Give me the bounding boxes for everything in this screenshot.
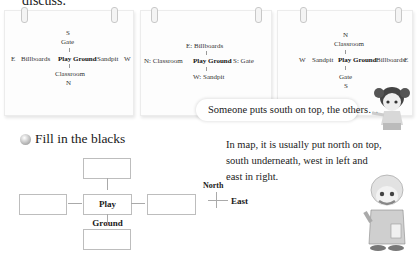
blank-box-north[interactable] [83,158,131,179]
arrow-icon [345,66,346,70]
place-bottom: Classroom [55,70,85,78]
direction-bottom: N [66,79,71,87]
exercise-title: Fill in the blacks [20,131,125,147]
place-top: E: Billboards [186,42,223,50]
arrow-icon [69,48,70,52]
blank-box-south[interactable] [83,229,131,250]
compass-horizontal-line [208,200,228,201]
place-top: Classroom [334,40,364,48]
compass-east-label: East [231,196,248,206]
paper-clip-icon [300,7,307,23]
grandpa-character-icon [355,172,415,254]
arrow-icon [345,50,346,54]
place-right: Billboards [376,56,405,64]
direction-left: E [11,55,15,63]
connector-line [131,203,145,204]
place-right: S: Gate [233,57,254,65]
girl-speech-bubble: Someone puts south on top, the others… [196,99,358,121]
compass-north-label: North [203,181,223,190]
connector-line [107,178,108,190]
direction-bottom: S [344,82,348,90]
place-top: Gate [61,38,74,46]
paper-clip-icon [255,7,262,23]
map-card-1: S Gate E Billboards Play Ground Sandpit … [4,10,134,116]
blank-box-east[interactable] [147,194,196,215]
arrow-icon [206,51,207,55]
connector-line [107,214,108,226]
girl-character-icon [370,83,414,133]
center-label: Play Ground [193,57,232,65]
paper-clip-icon [21,7,28,23]
blank-box-west[interactable] [19,194,67,215]
place-bottom: Gate [339,73,352,81]
paper-clip-icon [395,7,402,23]
place-bottom: W: Sandpit [193,73,224,81]
center-label: Play Ground [338,56,377,64]
arrow-icon [206,67,207,71]
direction-right: W [124,55,131,63]
paper-clip-icon [151,7,158,23]
place-left: N: Classroom [144,57,183,65]
intro-text-fragment: discuss. [22,0,66,9]
exercise-title-text: Fill in the blacks [35,131,125,147]
place-right: Sandpit [97,55,118,63]
center-box: Play Ground [83,194,132,215]
connector-line [68,203,82,204]
place-left: Sandpit [312,56,333,64]
place-left: Billboards [21,55,50,63]
direction-top: N [343,31,348,39]
arrow-icon [69,64,70,68]
direction-right: E [404,56,408,64]
direction-top: S [66,29,70,37]
direction-left: W [299,56,306,64]
bullet-icon [20,134,31,145]
paper-clip-icon [111,7,118,23]
center-label: Play Ground [58,55,97,63]
